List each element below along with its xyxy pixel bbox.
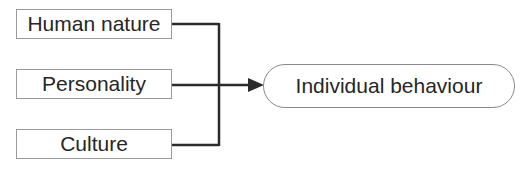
output-label: Individual behaviour (296, 74, 483, 98)
input-label: Human nature (27, 12, 160, 36)
input-box-personality: Personality (16, 69, 172, 99)
input-label: Personality (42, 72, 146, 96)
arrow-head-icon (248, 78, 264, 92)
input-box-human-nature: Human nature (16, 9, 172, 39)
input-box-culture: Culture (16, 129, 172, 159)
input-label: Culture (60, 132, 128, 156)
output-node-individual-behaviour: Individual behaviour (263, 64, 515, 108)
